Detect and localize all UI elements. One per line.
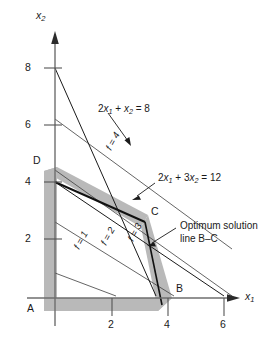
vertex-label-C: C xyxy=(151,205,159,217)
optimum-edge-d-c xyxy=(55,182,145,222)
optimum-annotation-line2: line B–C xyxy=(180,233,218,245)
constraint-label-2: 2x1 + 3x2 = 12 xyxy=(158,172,221,185)
y-axis-arrow xyxy=(51,31,59,44)
x-axis-title-sub: 1 xyxy=(250,295,254,304)
y-tick-label-6: 6 xyxy=(25,118,31,130)
x-axis-arrow xyxy=(227,294,240,302)
vertex-label-B: B xyxy=(176,282,183,294)
constraint-label-2-c4: + 3 xyxy=(173,172,190,183)
shade-band-bottom xyxy=(44,298,172,311)
objective-line-f1 xyxy=(55,273,116,296)
leader-arrowhead-constraint-1 xyxy=(125,137,132,146)
objective-function-lines xyxy=(55,119,232,296)
constraint-label-1: 2x1 + x2 = 8 xyxy=(98,103,150,116)
optimum-annotation-line1: Optimum solution xyxy=(180,220,258,232)
plot-canvas xyxy=(0,0,266,341)
shade-band-cb xyxy=(141,215,172,311)
leader-line-optimum xyxy=(152,228,176,243)
x-axis-title: x1 xyxy=(245,290,254,305)
y-tick-label-4: 4 xyxy=(25,175,31,187)
constraint-label-1-c4: + xyxy=(113,103,124,114)
linear-programming-figure: x2 x1 8 6 4 2 2 4 6 A B C D 2x1 + x2 = 8… xyxy=(0,0,266,341)
y-axis-title: x2 xyxy=(36,9,45,24)
y-tick-label-8: 8 xyxy=(25,61,31,73)
x-tick-label-2: 2 xyxy=(108,318,114,330)
x-tick-label-6: 6 xyxy=(220,318,226,330)
constraint-label-1-c7: = 8 xyxy=(133,103,150,114)
y-tick-label-2: 2 xyxy=(25,232,31,244)
leader-arrowhead-constraint-2 xyxy=(132,196,141,201)
leader-line-constraint-2 xyxy=(137,183,155,196)
vertex-label-A: A xyxy=(27,302,34,314)
constraint-label-2-c7: = 12 xyxy=(199,172,222,183)
y-axis-title-sub: 2 xyxy=(41,14,45,23)
x-tick-label-4: 4 xyxy=(164,318,170,330)
vertex-label-D: D xyxy=(33,154,41,166)
